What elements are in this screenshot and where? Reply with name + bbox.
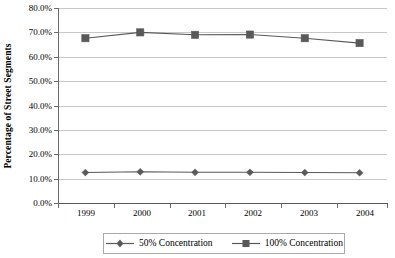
y-tick-mark: [54, 32, 59, 33]
y-tick-mark: [54, 130, 59, 131]
y-tick-label-30: 30.0%: [0, 126, 52, 135]
gridline-40: [58, 106, 387, 107]
gridline-30: [58, 130, 387, 131]
y-tick-mark: [54, 81, 59, 82]
x-tick-label-2002: 2002: [223, 208, 283, 218]
x-tick-label-1999: 1999: [56, 208, 116, 218]
y-tick-label-70: 70.0%: [0, 28, 52, 37]
y-tick-label-10: 10.0%: [0, 175, 52, 184]
y-tick-label-60: 60.0%: [0, 53, 52, 62]
gridline-10: [58, 179, 387, 180]
diamond-marker-icon: [105, 238, 135, 249]
x-tick-label-2004: 2004: [335, 208, 395, 218]
x-tick-label-2000: 2000: [112, 208, 172, 218]
y-tick-mark: [54, 154, 59, 155]
legend-label-50: 50% Concentration: [139, 238, 213, 249]
y-tick-label-0: 0.0%: [0, 199, 52, 208]
plot-area: [58, 8, 387, 203]
legend-entry-50[interactable]: 50% Concentration: [105, 238, 213, 249]
gridline-80: [58, 8, 387, 9]
gridline-50: [58, 81, 387, 82]
chart-legend: 50% Concentration 100% Concentration: [103, 233, 345, 254]
x-tick-label-2003: 2003: [279, 208, 339, 218]
y-tick-label-80: 80.0%: [0, 4, 52, 13]
legend-label-100: 100% Concentration: [265, 238, 343, 249]
y-tick-mark: [54, 57, 59, 58]
y-tick-label-40: 40.0%: [0, 102, 52, 111]
y-tick-mark: [54, 106, 59, 107]
square-marker-icon: [231, 238, 261, 249]
x-axis-line: [58, 203, 388, 204]
legend-entry-100[interactable]: 100% Concentration: [231, 238, 343, 249]
x-tick-label-2001: 2001: [167, 208, 227, 218]
chart-container: Percentage of Street Segments 80.0% 70.0…: [0, 0, 395, 258]
gridline-70: [58, 32, 387, 33]
y-tick-mark: [54, 8, 59, 9]
gridline-20: [58, 154, 387, 155]
y-tick-label-20: 20.0%: [0, 150, 52, 159]
gridline-60: [58, 57, 387, 58]
y-tick-label-50: 50.0%: [0, 77, 52, 86]
y-tick-mark: [54, 179, 59, 180]
